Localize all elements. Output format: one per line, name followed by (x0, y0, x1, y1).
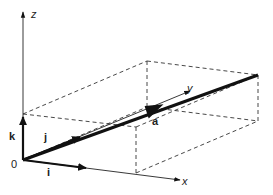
box-edge-bottom-right (136, 121, 258, 173)
vector-a-group (23, 75, 258, 160)
box-edge-top-left (23, 61, 147, 114)
vector-a-label: a (152, 115, 159, 127)
box-edge-top-back (147, 61, 258, 75)
origin-label: 0 (11, 158, 17, 170)
unit-vectors (23, 117, 86, 168)
axes (23, 12, 190, 180)
vector-diagram: z y x k j i a 0 (0, 0, 273, 195)
y-axis-label: y (186, 82, 194, 94)
z-axis-label: z (30, 8, 37, 20)
unit-vector-i-label: i (47, 166, 50, 178)
vector-a (23, 75, 258, 160)
unit-vector-j-label: j (43, 131, 47, 143)
unit-vector-k-label: k (9, 130, 16, 142)
x-axis-label: x (181, 175, 188, 187)
unit-vector-i (23, 160, 86, 168)
